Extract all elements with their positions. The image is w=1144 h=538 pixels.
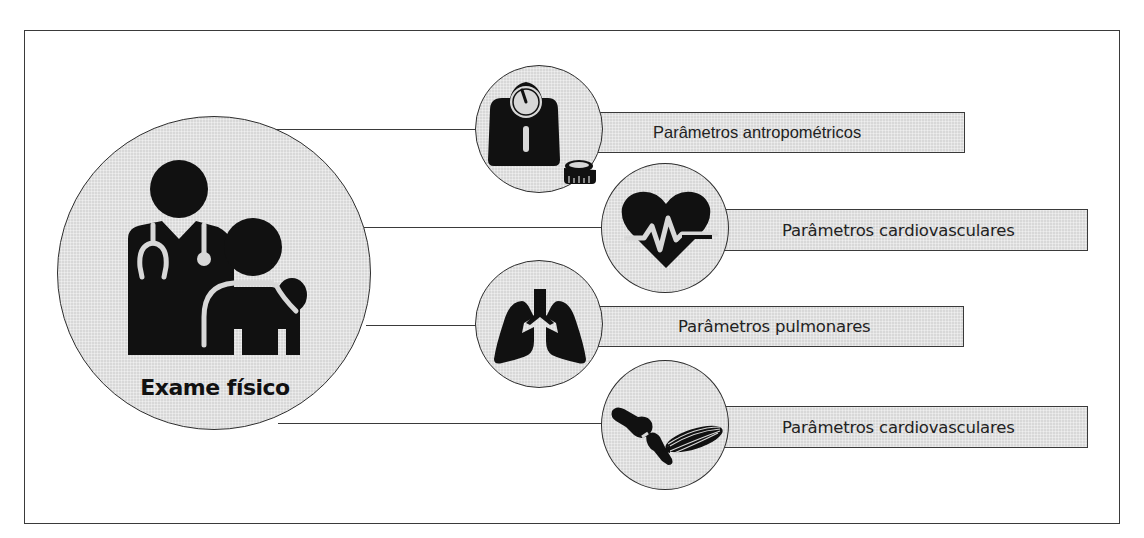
branch-bar-2: Parâmetros cardiovasculares — [715, 209, 1088, 251]
joint-and-muscle-icon — [602, 361, 730, 491]
branch-node-1 — [475, 65, 603, 193]
heart-pulse-icon — [602, 164, 730, 294]
branch-bar-1: Parâmetros antropométricos — [590, 112, 965, 153]
connector-3 — [366, 325, 477, 326]
branch-node-3 — [475, 260, 603, 388]
lungs-icon — [476, 261, 604, 389]
diagram-canvas: Parâmetros antropométricos Parâmetros ca… — [0, 0, 1144, 538]
branch-label-4: Parâmetros cardiovasculares — [782, 418, 1015, 437]
connector-2 — [363, 227, 604, 228]
central-node-label: Exame físico — [140, 375, 290, 400]
branch-node-2 — [601, 163, 729, 293]
scale-and-tape-measure-icon — [476, 66, 604, 194]
doctor-patient-icon: Exame físico — [58, 117, 372, 431]
central-node: Exame físico — [57, 116, 371, 430]
branch-bar-4: Parâmetros cardiovasculares — [715, 406, 1088, 448]
branch-label-1: Parâmetros antropométricos — [653, 123, 861, 142]
branch-label-3: Parâmetros pulmonares — [678, 317, 871, 336]
branch-node-4 — [601, 360, 729, 490]
branch-label-2: Parâmetros cardiovasculares — [782, 221, 1015, 240]
branch-bar-3: Parâmetros pulmonares — [590, 306, 964, 347]
